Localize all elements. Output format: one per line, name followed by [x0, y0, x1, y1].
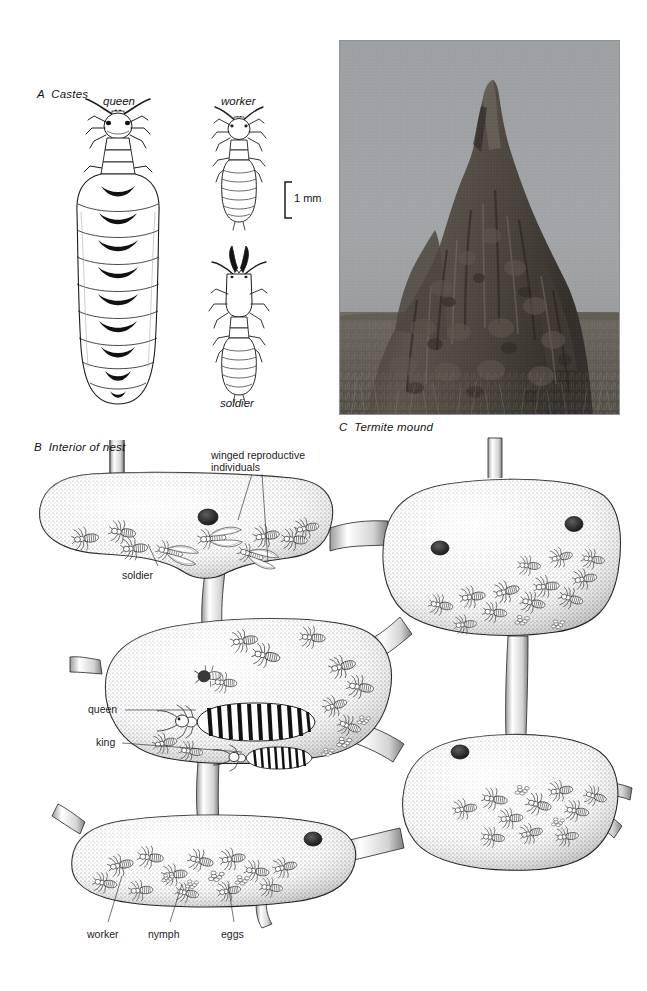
callout-nymph: nymph — [148, 929, 180, 941]
chamber-lower-left — [72, 815, 356, 907]
chamber-royal — [105, 619, 391, 772]
leader-lines — [108, 474, 268, 922]
panel-b-artwork — [40, 438, 632, 928]
panel-label-b: B Interior of nest — [34, 441, 125, 453]
chamber-upper-left — [40, 472, 333, 578]
chamber-lower-right — [403, 734, 618, 870]
queen-abdomen — [77, 174, 159, 404]
callout-winged-reproductive-individuals: winged reproductive individuals — [211, 450, 305, 473]
callout-soldier: soldier — [122, 570, 153, 582]
callout-king: king — [96, 737, 115, 749]
worker-illustration — [212, 107, 266, 230]
soldier-illustration — [209, 246, 269, 402]
figure-plate: A Castes B Interior of nest C Termite mo… — [0, 0, 647, 991]
callout-queen: queen — [88, 704, 117, 716]
panel-a-artwork — [77, 99, 292, 404]
scale-bar-label: 1 mm — [294, 192, 322, 204]
queen-illustration — [77, 99, 159, 404]
callout-eggs: eggs — [221, 929, 244, 941]
caste-label-worker: worker — [221, 95, 256, 107]
scale-bar — [285, 182, 292, 218]
panel-label-c: C Termite mound — [339, 421, 433, 433]
termite-mound-photograph — [339, 40, 620, 415]
caste-label-queen: queen — [103, 95, 135, 107]
royal-queen — [157, 703, 315, 741]
photo-content — [339, 40, 620, 415]
chamber-upper-right — [383, 479, 621, 635]
caste-label-soldier: soldier — [220, 397, 254, 409]
callout-worker: worker — [87, 929, 119, 941]
nest-tunnels — [52, 438, 632, 928]
panel-label-a: A Castes — [37, 88, 88, 100]
royal-king — [213, 745, 312, 771]
